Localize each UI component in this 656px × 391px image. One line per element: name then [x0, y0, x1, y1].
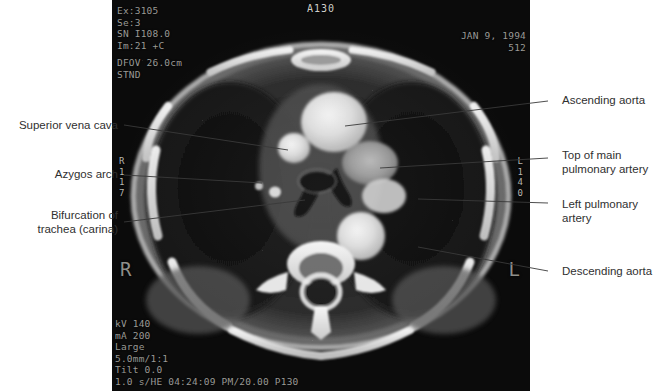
- annotation-azygos-arch: Azygos arch: [55, 167, 118, 181]
- dicom-focal-spot: Large: [115, 341, 145, 352]
- orientation-letter-r: R: [120, 258, 131, 280]
- dicom-footer-left: kV 140 mA 200 Large 5.0mm/1:1 Tilt 0.0 1…: [115, 318, 299, 387]
- orientation-marker-right-side: R 1 1 7: [119, 156, 124, 198]
- dicom-exam: Ex:3105: [117, 5, 158, 16]
- annotation-descending-aorta: Descending aorta: [562, 264, 652, 278]
- annotation-top-of-main-pulmonary-artery: Top of main pulmonary artery: [562, 148, 648, 176]
- dicom-slice-number: SN I108.0: [117, 28, 170, 39]
- annotation-left-pulmonary-artery: Left pulmonary artery: [562, 197, 638, 225]
- dicom-ma: mA 200: [115, 330, 151, 341]
- dicom-algorithm: STND: [117, 69, 141, 80]
- dicom-matrix: 512: [508, 42, 526, 53]
- annotation-bifurcation-of-trachea: Bifurcation of trachea (carina): [37, 208, 118, 236]
- dicom-series: Se:3: [117, 17, 141, 28]
- annotation-superior-vena-cava: Superior vena cava: [19, 118, 118, 132]
- ct-figure: Ex:3105 Se:3 SN I108.0 Im:21 +CDFOV 26.0…: [0, 0, 656, 391]
- dicom-image-number: Im:21 +C: [117, 40, 164, 51]
- dicom-header-right: JAN 9, 1994 512: [461, 30, 526, 53]
- dicom-slice-thickness: 5.0mm/1:1: [115, 353, 168, 364]
- orientation-letter-l: L: [509, 258, 520, 280]
- dicom-date: JAN 9, 1994: [461, 30, 526, 41]
- dicom-kv: kV 140: [115, 318, 151, 329]
- dicom-orientation-top: A130: [307, 3, 335, 14]
- dicom-gantry-tilt: Tilt 0.0: [115, 364, 162, 375]
- dicom-scan-footer: 1.0 s/HE 04:24:09 PM/20.00 P130: [115, 376, 299, 387]
- orientation-marker-left-side: L 1 4 0: [518, 156, 523, 198]
- annotation-ascending-aorta: Ascending aorta: [562, 93, 645, 107]
- dicom-dfov: DFOV 26.0cm: [117, 57, 182, 68]
- ct-scan-image[interactable]: Ex:3105 Se:3 SN I108.0 Im:21 +CDFOV 26.0…: [112, 0, 530, 391]
- dicom-header-left: Ex:3105 Se:3 SN I108.0 Im:21 +CDFOV 26.0…: [117, 5, 182, 80]
